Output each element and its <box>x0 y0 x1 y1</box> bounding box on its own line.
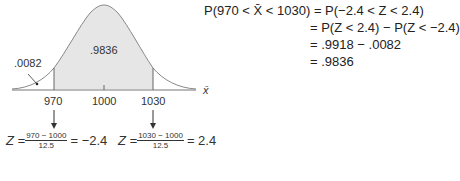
eq-lhs: P(970 < X̄ < 1030) <box>204 3 310 18</box>
eq-line2: = P(Z < 2.4) − P(Z < −2.4) <box>204 19 460 36</box>
arrow-left <box>50 110 60 130</box>
tick-1030: 1030 <box>141 95 165 107</box>
eq-line3: = .9918 − .0082 <box>204 36 460 53</box>
tick-1000: 1000 <box>92 95 116 107</box>
axis-label: x̄ <box>203 84 209 96</box>
tail-pointer <box>28 74 37 84</box>
z-score-left: Z = 970 − 100012.5 = −2.4 <box>6 131 107 150</box>
arrow-right <box>149 110 159 130</box>
probability-equations: P(970 < X̄ < 1030) = P(−2.4 < Z < 2.4) =… <box>204 2 460 70</box>
eq-line4: = .9836 <box>204 53 460 70</box>
tick-970: 970 <box>44 95 62 107</box>
center-area-label: .9836 <box>90 44 118 56</box>
tail-area-label: .0082 <box>14 57 42 69</box>
z-score-right: Z = 1030 − 100012.5 = 2.4 <box>118 131 216 150</box>
